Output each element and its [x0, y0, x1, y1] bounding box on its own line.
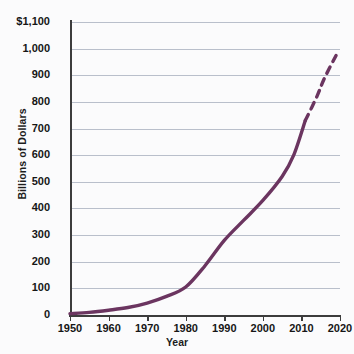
y-axis-tick-label: 1,000: [0, 42, 50, 54]
gridline: [70, 235, 340, 236]
y-axis-tick-label: $1,100: [0, 15, 50, 27]
x-axis-tick: [263, 316, 264, 321]
plot-area: 01002003004005006007008009001,000$1,100: [70, 22, 340, 315]
gridline: [70, 102, 340, 103]
x-axis-tick: [301, 316, 302, 321]
gridline: [70, 129, 340, 130]
y-axis-tick-label: 200: [0, 255, 50, 267]
y-axis-tick-label: 800: [0, 95, 50, 107]
y-axis-tick-label: 300: [0, 228, 50, 240]
y-axis-tick-label: 500: [0, 175, 50, 187]
y-axis-tick-label: 900: [0, 68, 50, 80]
gridline: [70, 49, 340, 50]
x-axis-title: Year: [0, 336, 354, 348]
gridline: [70, 288, 340, 289]
gridline: [70, 75, 340, 76]
gridline: [70, 262, 340, 263]
y-axis-tick-label: 0: [0, 308, 50, 320]
chart-figure: Billions of Dollars Year 010020030040050…: [0, 0, 354, 354]
x-axis-tick: [70, 316, 71, 321]
x-axis-tick: [186, 316, 187, 321]
gridline: [70, 182, 340, 183]
y-axis-tick-label: 600: [0, 148, 50, 160]
x-axis-tick-label: 2020: [316, 322, 354, 334]
y-axis-tick-label: 700: [0, 122, 50, 134]
x-axis-tick: [147, 316, 148, 321]
y-axis-tick-label: 400: [0, 201, 50, 213]
gridline: [70, 208, 340, 209]
x-axis-tick: [224, 316, 225, 321]
x-axis-tick: [340, 316, 341, 321]
y-axis-line: [70, 20, 72, 317]
y-axis-tick-label: 100: [0, 281, 50, 293]
x-axis-tick: [109, 316, 110, 321]
gridline: [70, 22, 340, 23]
gridline: [70, 155, 340, 156]
